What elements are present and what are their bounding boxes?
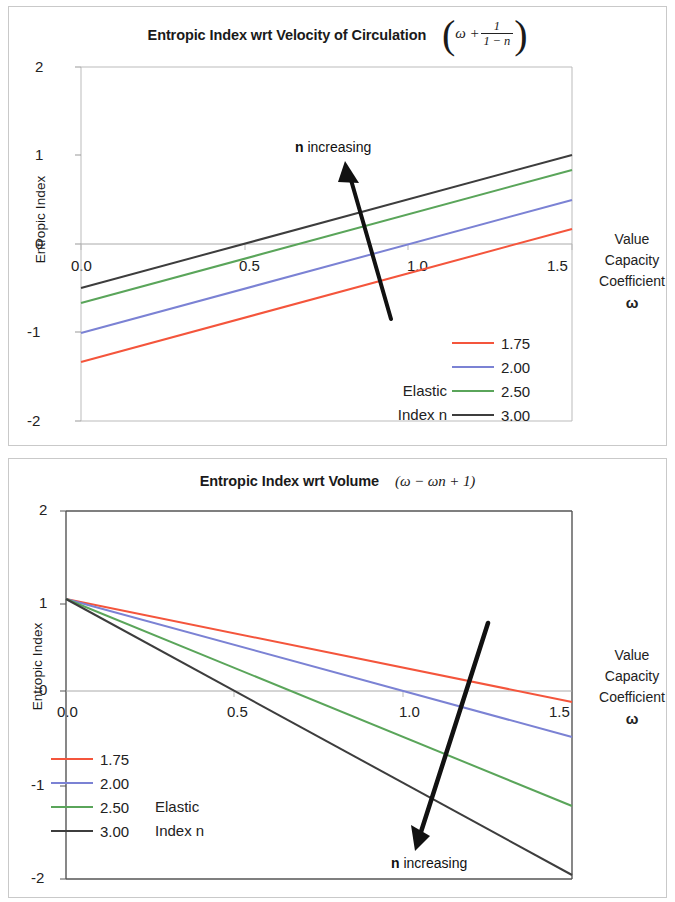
chart-1-series-2.50 [81,170,572,303]
chart-1-legend: 1.75 2.00 2.50 3.00 [452,331,543,427]
chart-1-axis-note-line-2: Capacity [589,250,675,271]
legend-label-3.00: 3.00 [100,823,142,840]
chart-1-axis-note-line-3: Coefficient [589,271,675,292]
figure-page: Entropic Index wrt Velocity of Circulati… [0,0,675,902]
legend-item[interactable]: 2.50 [51,795,142,819]
legend-item[interactable]: 1.75 [51,747,142,771]
chart-1-series-3.00 [81,155,572,288]
chart-1-axis-note-line-1: Value [589,229,675,250]
legend-swatch-1.75 [452,342,494,344]
chart-2-axis-note: Value Capacity Coefficient ω [589,645,675,729]
chart-1-axis-note: Value Capacity Coefficient ω [589,229,675,313]
chart-2-annotation: n increasing [391,855,467,871]
legend-swatch-1.75 [51,758,93,760]
legend-item[interactable]: 2.50 [452,379,543,403]
chart-card-volume: Entropic Index wrt Volume (ω − ωn + 1) E… [8,458,667,898]
chart-1-legend-title: Elastic Index n [385,379,447,427]
legend-label-3.00: 3.00 [501,407,543,424]
chart-1-series-2.00 [81,200,572,333]
legend-item[interactable]: 3.00 [51,819,142,843]
chart-2-axis-note-line-2: Capacity [589,666,675,687]
legend-item[interactable]: 1.75 [452,331,543,355]
chart-1-axis-note-symbol: ω [589,292,675,313]
legend-swatch-3.00 [452,414,494,416]
legend-label-1.75: 1.75 [100,751,142,768]
chart-2-axis-note-line-3: Coefficient [589,687,675,708]
chart-2-axis-note-line-1: Value [589,645,675,666]
legend-label-2.50: 2.50 [100,799,142,816]
chart-2-annotation-rest: increasing [400,855,468,871]
chart-2-annotation-bold: n [391,855,400,871]
legend-label-2.00: 2.00 [501,359,543,376]
legend-swatch-2.00 [51,782,93,784]
legend-label-1.75: 1.75 [501,335,543,352]
chart-2-legend-title: Elastic Index n [155,795,225,843]
chart-1-plot-area [9,7,668,445]
legend-label-2.50: 2.50 [501,383,543,400]
legend-item[interactable]: 2.00 [51,771,142,795]
chart-2-series-1.75 [66,599,572,702]
chart-2-legend: 1.75 2.00 2.50 3.00 [51,747,142,843]
legend-swatch-2.50 [51,806,93,808]
chart-1-legend-title-line-1: Elastic [385,379,447,403]
chart-1-n-increasing-arrow [338,161,391,319]
legend-swatch-2.00 [452,366,494,368]
legend-swatch-2.50 [452,390,494,392]
chart-2-legend-title-line-1: Elastic [155,795,225,819]
chart-1-legend-title-line-2: Index n [385,403,447,427]
chart-2-n-increasing-arrow [411,623,488,851]
chart-2-axis-note-symbol: ω [589,708,675,729]
chart-1-annotation-bold: n [295,139,304,155]
chart-1-annotation-rest: increasing [304,139,372,155]
chart-card-velocity-of-circulation: Entropic Index wrt Velocity of Circulati… [8,6,667,446]
chart-2-series-2.00 [66,599,572,737]
chart-1-annotation: n increasing [295,139,371,155]
chart-2-legend-title-line-2: Index n [155,819,225,843]
legend-swatch-3.00 [51,830,93,832]
legend-item[interactable]: 3.00 [452,403,543,427]
legend-item[interactable]: 2.00 [452,355,543,379]
legend-label-2.00: 2.00 [100,775,142,792]
